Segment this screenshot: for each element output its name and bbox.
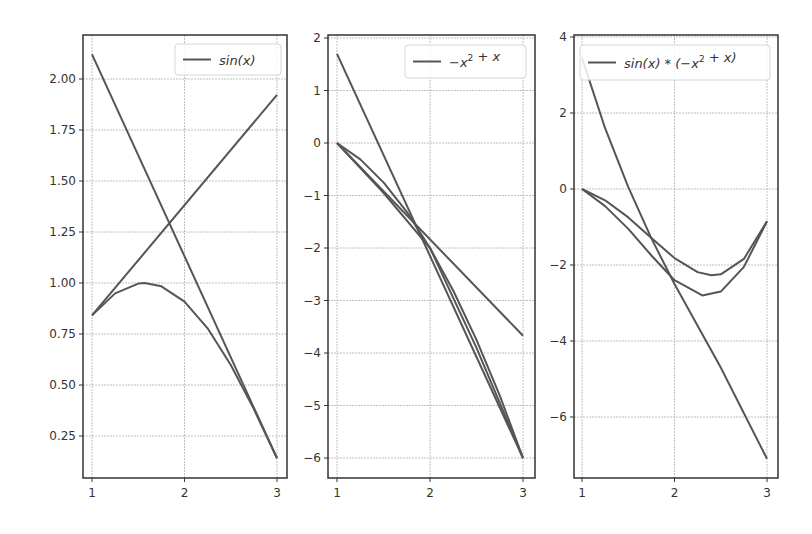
y-tick-label: 1.25 (49, 225, 76, 239)
legend: −x2 + x (405, 45, 526, 78)
y-tick-label: 4 (559, 30, 567, 44)
y-tick-label: −2 (549, 258, 567, 272)
y-tick-label: 1.00 (49, 276, 76, 290)
x-tick-label: 3 (273, 486, 281, 500)
y-tick-label: −1 (303, 189, 321, 203)
figure: 1230.250.500.751.001.251.501.752.00sin(x… (0, 0, 812, 534)
y-tick-label: 0.75 (49, 327, 76, 341)
x-tick-label: 2 (181, 486, 189, 500)
axes-frame (574, 35, 778, 478)
x-tick-label: 3 (519, 486, 527, 500)
y-tick-label: −6 (303, 451, 321, 465)
y-tick-label: −5 (303, 399, 321, 413)
y-tick-label: 0.25 (49, 429, 76, 443)
x-tick-label: 2 (426, 486, 434, 500)
subplot-2: 123−6−5−4−3−2−1012−x2 + x (303, 31, 535, 500)
x-tick-label: 3 (763, 486, 771, 500)
y-tick-label: 1.50 (49, 174, 76, 188)
x-tick-label: 2 (671, 486, 679, 500)
y-tick-label: 2 (559, 106, 567, 120)
subplot-3: 123−6−4−2024sin(x) * (−x2 + x) (549, 30, 778, 500)
y-tick-label: −3 (303, 294, 321, 308)
subplot-1: 1230.250.500.751.001.251.501.752.00sin(x… (49, 35, 287, 500)
y-tick-label: −4 (303, 346, 321, 360)
y-tick-label: −2 (303, 241, 321, 255)
legend: sin(x) (175, 44, 281, 75)
y-tick-label: 0.50 (49, 378, 76, 392)
y-tick-label: 1.75 (49, 123, 76, 137)
y-tick-label: 1 (313, 84, 321, 98)
grid (574, 35, 778, 478)
legend: sin(x) * (−x2 + x) (580, 45, 770, 80)
x-tick-label: 1 (578, 486, 586, 500)
legend-label: sin(x) (219, 53, 255, 68)
y-tick-label: −6 (549, 410, 567, 424)
x-tick-label: 1 (333, 486, 341, 500)
y-tick-label: 0 (313, 136, 321, 150)
y-tick-label: 2.00 (49, 72, 76, 86)
y-tick-label: 2 (313, 31, 321, 45)
x-tick-label: 1 (88, 486, 96, 500)
y-tick-label: 0 (559, 182, 567, 196)
y-tick-label: −4 (549, 334, 567, 348)
